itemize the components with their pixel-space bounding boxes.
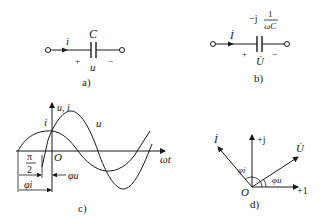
impedance-numerator: 1 bbox=[268, 9, 273, 19]
impedance-prefix: −j bbox=[249, 13, 257, 24]
imag-axis-label: +j bbox=[257, 134, 265, 145]
plus-sign: + bbox=[242, 49, 247, 59]
terminal-left bbox=[46, 48, 51, 53]
voltage-phasor-label: U̇ bbox=[296, 142, 305, 154]
terminal-left bbox=[211, 42, 216, 47]
capacitor-ac-diagram: i C + − u a) İ −j 1 ωC + − U̇ b) u, i ωt… bbox=[0, 0, 320, 220]
terminal-right bbox=[285, 42, 290, 47]
caption-a: a) bbox=[82, 76, 91, 89]
caption-d: d) bbox=[250, 198, 260, 211]
current-label: i bbox=[66, 35, 69, 47]
panel-c-waveforms: u, i ωt O i u π 2 φu φi c) bbox=[16, 102, 172, 215]
minus-sign: − bbox=[108, 56, 113, 66]
voltage-label: u bbox=[90, 61, 96, 73]
current-arrow-icon bbox=[62, 48, 68, 53]
terminal-right bbox=[120, 48, 125, 53]
two-label: 2 bbox=[27, 164, 32, 175]
curve-i-label: i bbox=[44, 116, 47, 128]
current-phasor-arrow bbox=[218, 147, 252, 187]
plus-sign: + bbox=[75, 56, 80, 66]
phi-u-label: φu bbox=[272, 175, 282, 185]
panel-b-phasor-circuit: İ −j 1 ωC + − U̇ b) bbox=[211, 9, 290, 85]
phi-i-label: φi bbox=[238, 165, 246, 175]
panel-a-capacitor-circuit: i C + − u a) bbox=[46, 27, 125, 89]
real-axis-label: +1 bbox=[297, 185, 308, 196]
x-axis-label: ωt bbox=[160, 153, 172, 165]
origin-label: O bbox=[54, 151, 62, 163]
minus-sign: − bbox=[272, 49, 277, 59]
origin-label: O bbox=[241, 186, 249, 198]
panel-d-phasor-diagram: +1 +j O U̇ İ φu φi d) bbox=[213, 133, 308, 211]
current-arrow-icon bbox=[228, 42, 234, 47]
impedance-denominator: ωC bbox=[264, 21, 277, 31]
curve-u-label: u bbox=[96, 117, 102, 129]
voltage-phasor-label: U̇ bbox=[256, 55, 265, 67]
current-phasor-label: İ bbox=[213, 133, 219, 145]
caption-b: b) bbox=[254, 72, 264, 85]
pi-label: π bbox=[27, 151, 32, 162]
current-phasor-label: İ bbox=[229, 29, 235, 41]
phi-u-label: φu bbox=[68, 170, 79, 181]
caption-c: c) bbox=[78, 202, 87, 215]
phi-i-label: φi bbox=[24, 179, 33, 190]
phi-u-arc bbox=[264, 180, 266, 187]
capacitor-label: C bbox=[89, 27, 98, 41]
